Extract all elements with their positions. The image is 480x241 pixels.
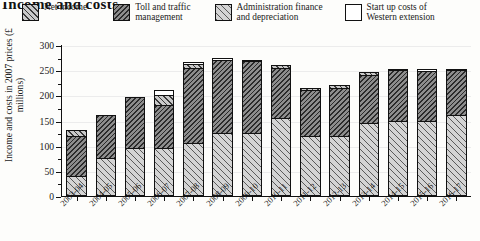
y-tick [56,122,61,123]
legend-swatch-start-up-icon [345,4,362,21]
legend-item-toll-traffic: Toll and traffic management [113,3,190,22]
bar-segment-toll-traffic [388,70,408,120]
y-tick-label: 0 [49,192,54,202]
y-tick [56,172,61,173]
bar-segment-toll-traffic [183,68,203,144]
bar-segment-toll-traffic [329,88,349,136]
legend-label-start-up-costs: Start up costs of Western extension [367,3,435,22]
y-tick [56,46,61,47]
bar-segment-toll-traffic [242,61,262,133]
bar-segment-toll-traffic [66,136,86,176]
y-tick [56,96,61,97]
bar-2007-08[interactable] [183,62,203,196]
bar-segment-toll-traffic [154,105,174,148]
bar-2008-09[interactable] [212,58,232,196]
chart-plot-area: Income and costs in 2007 prices (£ milli… [0,28,480,241]
legend-item-start-up-costs: Start up costs of Western extension [345,3,435,22]
bar-2012-13[interactable] [329,85,349,196]
bar-series-layer [62,45,471,196]
bar-segment-toll-traffic [271,68,291,118]
y-tick-minor [58,159,61,160]
bar-segment-toll-traffic [96,115,116,158]
y-tick-label: 50 [44,167,54,177]
y-tick-label: 100 [40,142,54,152]
y-axis-label: Income and costs in 2007 prices (£ milli… [3,20,25,170]
legend-item-net-income: Net income [22,3,87,21]
bar-segment-toll-traffic [212,60,232,133]
y-tick-label: 250 [40,66,54,76]
legend-label-toll-traffic: Toll and traffic management [135,3,190,22]
bar-segment-toll-traffic [359,75,379,123]
y-tick-minor [58,184,61,185]
legend-label-admin-finance: Administration finance and depreciation [237,3,323,22]
chart-legend: Net income Toll and traffic management A… [22,3,480,22]
legend-swatch-net-income-icon [22,4,39,21]
bar-segment-net-income [154,95,174,105]
axis-area: 050100150200250300 [61,45,471,197]
y-tick [56,147,61,148]
legend-item-admin-finance: Administration finance and depreciation [215,3,323,22]
x-axis-labels: 2003-042004-052005-062006-072007-082008-… [61,201,480,241]
bar-segment-toll-traffic [417,71,437,120]
bar-2016-17[interactable] [446,69,466,196]
legend-swatch-toll-traffic-icon [113,4,130,21]
bar-2013-14[interactable] [359,72,379,196]
bar-segment-toll-traffic [300,90,320,135]
bar-segment-toll-traffic [125,97,145,148]
y-tick-label: 300 [40,41,54,51]
y-tick-minor [58,134,61,135]
bar-2015-16[interactable] [417,69,437,196]
y-tick-minor [58,59,61,60]
bar-segment-toll-traffic [446,70,466,115]
bar-2014-15[interactable] [388,69,408,196]
y-tick-minor [58,84,61,85]
legend-swatch-admin-finance-icon [215,4,232,21]
y-tick [56,71,61,72]
y-tick-label: 200 [40,91,54,101]
bar-2010-11[interactable] [271,65,291,196]
y-tick-minor [58,109,61,110]
legend-label-net-income: Net income [44,3,87,13]
y-tick-label: 150 [40,117,54,127]
bar-2009-10[interactable] [242,60,262,196]
